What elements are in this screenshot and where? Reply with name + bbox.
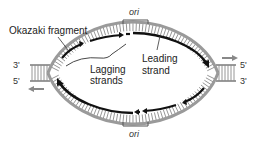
leading-strand-top-arrowhead [202,60,209,68]
ori-label-bottom: ori [129,129,140,139]
okazaki-fragment-label: Okazaki fragment [9,25,88,36]
leading-strand-bottom-arrowhead [57,78,64,86]
end-label-left-top: 3' [13,60,20,70]
lagging-strands-label-line1: Lagging [90,64,126,75]
replication-bubble-diagram: 3' 5' 5' 3' ori ori Okazaki fragment Lag… [0,0,266,147]
right-duplex [216,65,236,81]
leading-strand-label-line1: Leading [142,53,178,64]
leading-strand-label-line2: strand [142,65,170,76]
base-pair-ticks [51,22,216,124]
leading-pointer-line [157,36,160,50]
left-fork-direction-arrow [28,86,44,92]
okazaki-fragment [90,35,122,41]
ori-label-top: ori [129,7,140,17]
end-label-left-bottom: 5' [13,76,20,86]
right-fork-direction-arrow [222,55,238,61]
okazaki-fragment [144,105,176,111]
left-duplex [30,65,50,81]
end-label-right-bottom: 3' [240,76,247,86]
lagging-strands-label-line2: strands [90,75,123,86]
end-label-right-top: 5' [240,60,247,70]
